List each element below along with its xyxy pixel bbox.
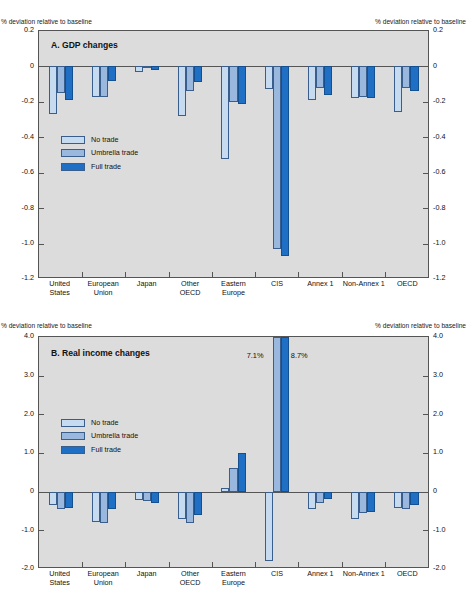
bar-no-trade bbox=[265, 66, 273, 89]
y-tick-label-l-b-5: -1.0 bbox=[0, 525, 34, 534]
bar-group bbox=[221, 31, 245, 277]
x-tick-mark bbox=[298, 562, 299, 567]
bar-umbrella-trade bbox=[316, 66, 324, 87]
plot-area-b: B. Real income changesNo tradeUmbrella t… bbox=[38, 336, 429, 568]
bar-umbrella-trade bbox=[402, 492, 410, 509]
bar-no-trade bbox=[394, 492, 402, 508]
bar-group bbox=[265, 31, 289, 277]
x-axis-label-line1: Annex 1 bbox=[299, 570, 342, 579]
bar-value-annotation: 8.7% bbox=[291, 351, 308, 360]
bar-no-trade bbox=[178, 492, 186, 520]
y-tick-mark bbox=[39, 173, 44, 174]
bar-umbrella-trade bbox=[143, 492, 151, 502]
bar-full-trade bbox=[367, 66, 375, 98]
bar-no-trade bbox=[394, 66, 402, 112]
x-axis-label-line1: Japan bbox=[125, 280, 168, 289]
bar-full-trade bbox=[194, 492, 202, 515]
bar-umbrella-trade bbox=[100, 66, 108, 96]
y-tick-mark bbox=[423, 173, 428, 174]
y-tick-label-l-b-1: 3.0 bbox=[0, 370, 34, 379]
bar-full-trade bbox=[324, 492, 332, 500]
x-tick-mark bbox=[169, 272, 170, 277]
bar-full-trade bbox=[151, 492, 159, 504]
bar-umbrella-trade bbox=[57, 492, 65, 509]
y-tick-label-r-b-4: 0 bbox=[433, 486, 467, 495]
bar-full-trade bbox=[238, 66, 246, 103]
x-axis-label: Japan bbox=[125, 570, 168, 579]
x-tick-mark bbox=[125, 272, 126, 277]
x-axis-label-line1: Japan bbox=[125, 570, 168, 579]
x-tick-mark bbox=[255, 272, 256, 277]
y-tick-mark bbox=[39, 414, 44, 415]
bar-umbrella-trade bbox=[186, 66, 194, 91]
bar-umbrella-trade bbox=[273, 66, 281, 248]
x-tick-mark bbox=[212, 272, 213, 277]
y-tick-label-l-a-3: -0.4 bbox=[0, 132, 34, 141]
x-axis-label: Japan bbox=[125, 280, 168, 289]
bar-no-trade bbox=[92, 492, 100, 522]
y-tick-mark bbox=[423, 66, 428, 67]
y-tick-mark bbox=[423, 102, 428, 103]
bar-full-trade bbox=[410, 492, 418, 506]
x-axis-label: EasternEurope bbox=[212, 280, 255, 297]
bar-full-trade bbox=[281, 337, 289, 492]
bar-umbrella-trade bbox=[229, 66, 237, 101]
bar-full-trade bbox=[108, 492, 116, 509]
y-tick-mark bbox=[39, 453, 44, 454]
panel-gdp-changes: % deviation relative to baseline % devia… bbox=[0, 18, 467, 310]
x-axis-label-line2: States bbox=[38, 579, 81, 588]
y-tick-label-r-a-0: 0.2 bbox=[433, 25, 467, 34]
x-axis-label-line2: Union bbox=[81, 579, 124, 588]
x-axis-label: OtherOECD bbox=[168, 570, 211, 587]
bar-umbrella-trade bbox=[143, 66, 151, 68]
bar-full-trade bbox=[108, 66, 116, 80]
bar-group bbox=[221, 337, 245, 567]
y-tick-label-l-a-2: -0.2 bbox=[0, 96, 34, 105]
x-axis-label: Non-Annex 1 bbox=[342, 280, 385, 289]
y-tick-label-l-a-6: -1.0 bbox=[0, 238, 34, 247]
x-tick-mark bbox=[212, 562, 213, 567]
y-tick-mark bbox=[423, 492, 428, 493]
y-tick-mark bbox=[423, 137, 428, 138]
x-tick-mark bbox=[125, 562, 126, 567]
bar-no-trade bbox=[265, 492, 273, 562]
bar-group bbox=[394, 337, 418, 567]
x-axis-label-line2: Europe bbox=[212, 579, 255, 588]
x-tick-mark bbox=[385, 562, 386, 567]
y-tick-label-r-a-7: -1.2 bbox=[433, 273, 467, 282]
y-tick-label-l-b-2: 2.0 bbox=[0, 409, 34, 418]
x-axis-label: UnitedStates bbox=[38, 280, 81, 297]
bar-group bbox=[178, 337, 202, 567]
x-tick-mark bbox=[342, 562, 343, 567]
bar-full-trade bbox=[324, 66, 332, 94]
y-tick-label-r-b-5: -1.0 bbox=[433, 525, 467, 534]
x-tick-mark bbox=[169, 562, 170, 567]
y-tick-mark bbox=[423, 453, 428, 454]
x-axis-label: Annex 1 bbox=[299, 280, 342, 289]
x-axis-label-line1: Non-Annex 1 bbox=[342, 570, 385, 579]
y-tick-label-r-b-0: 4.0 bbox=[433, 331, 467, 340]
y-tick-label-r-a-4: -0.6 bbox=[433, 167, 467, 176]
bar-no-trade bbox=[308, 66, 316, 100]
x-axis-label: CIS bbox=[255, 570, 298, 579]
bar-group bbox=[92, 337, 116, 567]
y-tick-label-r-b-1: 3.0 bbox=[433, 370, 467, 379]
x-axis-label-line2: States bbox=[38, 289, 81, 298]
x-axis-labels-b: UnitedStatesEuropeanUnionJapanOtherOECDE… bbox=[38, 570, 429, 592]
bar-full-trade bbox=[281, 66, 289, 256]
top-partial-text bbox=[0, 0, 467, 14]
x-axis-label-line2: OECD bbox=[168, 289, 211, 298]
x-tick-mark bbox=[82, 562, 83, 567]
y-tick-label-r-a-6: -1.0 bbox=[433, 238, 467, 247]
y-tick-mark bbox=[39, 66, 44, 67]
bar-group bbox=[178, 31, 202, 277]
bar-umbrella-trade bbox=[229, 468, 237, 492]
bar-group bbox=[135, 31, 159, 277]
bar-umbrella-trade bbox=[57, 66, 65, 93]
y-tick-label-l-b-3: 1.0 bbox=[0, 447, 34, 456]
y-tick-label-l-b-6: -2.0 bbox=[0, 563, 34, 572]
bar-full-trade bbox=[65, 492, 73, 508]
y-tick-mark bbox=[423, 376, 428, 377]
bar-umbrella-trade bbox=[273, 337, 281, 492]
axis-caption-right-a: % deviation relative to baseline bbox=[375, 18, 466, 25]
